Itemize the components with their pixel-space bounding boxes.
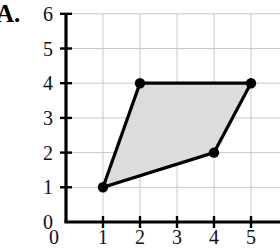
- y-tick-label: 3: [43, 107, 53, 129]
- vertex-marker: [98, 182, 108, 192]
- x-tick-label: 0: [49, 226, 59, 248]
- y-tick-label: 5: [43, 38, 53, 60]
- y-tick-label: 2: [43, 142, 53, 164]
- figure-panel: A. 01234560123456: [0, 0, 280, 250]
- y-tick-label: 6: [43, 3, 53, 25]
- panel-label: A.: [0, 0, 20, 28]
- x-tick-label: 4: [209, 226, 219, 248]
- x-tick-label: 3: [172, 226, 182, 248]
- x-tick-label: 5: [246, 226, 256, 248]
- y-tick-label: 4: [43, 72, 53, 94]
- vertex-marker: [209, 147, 219, 157]
- x-tick-label: 1: [98, 226, 108, 248]
- vertex-marker: [135, 78, 145, 88]
- x-tick-label: 2: [135, 226, 145, 248]
- vertex-marker: [246, 78, 256, 88]
- y-tick-label: 1: [43, 176, 53, 198]
- coordinate-plot: 01234560123456: [0, 0, 280, 250]
